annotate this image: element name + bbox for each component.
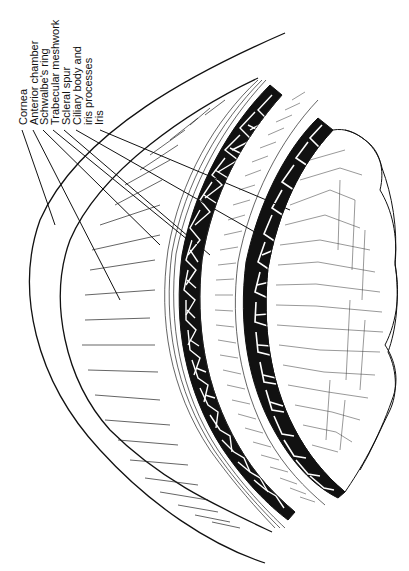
iris-stroma-lines bbox=[276, 150, 383, 452]
leader-cornea bbox=[22, 130, 55, 225]
leader-schwalbes-ring bbox=[43, 130, 160, 245]
leader-anterior-chamber bbox=[33, 130, 120, 300]
leader-scleral-spur bbox=[64, 130, 210, 255]
angle-diagram bbox=[0, 0, 409, 571]
iris-pupil-margin bbox=[345, 130, 397, 470]
trabecular-meshwork-band bbox=[179, 85, 295, 520]
leader-trabecular-meshwork bbox=[53, 130, 188, 240]
ciliary-body-band bbox=[243, 118, 345, 498]
